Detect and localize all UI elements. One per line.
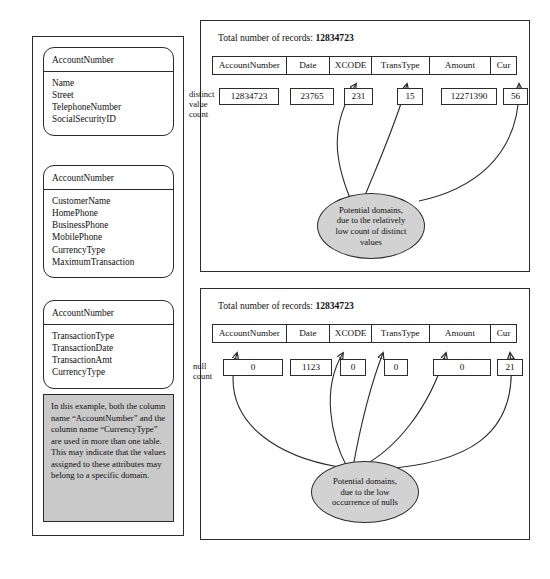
entity-attribute: BusinessPhone	[52, 219, 173, 231]
entity-box[interactable]: AccountNumber TransactionType Transactio…	[43, 300, 174, 389]
distinct-value-count-panel: Total number of records: 12834723 distin…	[200, 20, 530, 272]
entity-attribute-list: TransactionType TransactionDate Transact…	[44, 325, 173, 387]
annotation-bubble-distinct: Potential domains, due to the relatively…	[317, 193, 425, 259]
entity-attribute: TransactionType	[52, 330, 173, 342]
entity-attribute: CurrencyType	[52, 244, 173, 256]
entity-attribute: MobilePhone	[52, 231, 173, 243]
entity-attribute: CustomerName	[52, 195, 173, 207]
bubble-line: Potential domains,	[332, 476, 398, 487]
bubble-line: values	[336, 237, 407, 248]
entity-attribute: HomePhone	[52, 207, 173, 219]
entity-title: AccountNumber	[44, 166, 173, 190]
entity-list-panel: AccountNumber Name Street TelephoneNumbe…	[32, 36, 184, 536]
value-box-accountnumber: 12834723	[219, 88, 279, 105]
annotation-bubble-null: Potential domains, due to the low occurr…	[311, 461, 419, 523]
entity-attribute: Name	[52, 77, 173, 89]
entity-attribute: TransactionDate	[52, 342, 173, 354]
entity-attribute: CurrencyType	[52, 366, 173, 378]
value-box-amount: 12271390	[441, 88, 497, 105]
entity-box[interactable]: AccountNumber Name Street TelephoneNumbe…	[43, 47, 174, 136]
entity-attribute: Street	[52, 89, 173, 101]
bubble-line: low count of distinct	[336, 226, 407, 237]
entity-attribute: MaximumTransaction	[52, 256, 173, 268]
value-box-amount: 0	[433, 359, 491, 376]
entity-attribute-list: Name Street TelephoneNumber SocialSecuri…	[44, 72, 173, 134]
value-box-date: 23765	[290, 88, 334, 105]
entity-attribute: SocialSecurityID	[52, 113, 173, 125]
entity-attribute: TelephoneNumber	[52, 101, 173, 113]
value-box-cur: 21	[497, 359, 523, 376]
entity-attribute-list: CustomerName HomePhone BusinessPhone Mob…	[44, 190, 173, 276]
value-box-transtype: 15	[397, 88, 423, 105]
bubble-line: Potential domains,	[336, 205, 407, 216]
entity-box[interactable]: AccountNumber CustomerName HomePhone Bus…	[43, 165, 174, 278]
bubble-line: occurrence of nulls	[332, 497, 398, 508]
value-box-cur: 56	[503, 88, 528, 105]
entity-title: AccountNumber	[44, 48, 173, 72]
entity-attribute: TransactionAmt	[52, 354, 173, 366]
explanatory-note: In this example, both the column name “A…	[43, 394, 174, 522]
entity-title: AccountNumber	[44, 301, 173, 325]
value-box-transtype: 0	[384, 359, 408, 376]
value-box-xcode: 231	[344, 88, 373, 105]
value-box-date: 1123	[290, 359, 332, 376]
value-box-xcode: 0	[340, 359, 366, 376]
value-box-accountnumber: 0	[223, 359, 283, 376]
bubble-line: due to the low	[332, 487, 398, 498]
null-count-panel: Total number of records: 12834723 null c…	[200, 288, 530, 540]
bubble-line: due to the relatively	[336, 215, 407, 226]
